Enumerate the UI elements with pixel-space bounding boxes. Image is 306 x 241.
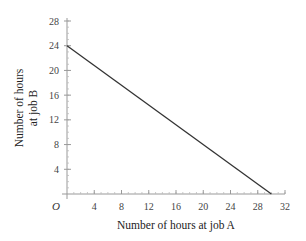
y-axis-label: at job B xyxy=(27,89,40,126)
x-tick-label: 16 xyxy=(171,201,181,212)
x-tick-label: 20 xyxy=(198,201,208,212)
x-axis-label: Number of hours at job A xyxy=(117,219,236,232)
x-tick-label: 28 xyxy=(253,201,263,212)
origin-label: O xyxy=(52,200,60,212)
y-tick-label: 16 xyxy=(49,90,59,101)
y-tick-label: 8 xyxy=(54,139,59,150)
x-tick-label: 32 xyxy=(280,201,290,212)
y-axis-label: Number of hours xyxy=(13,68,25,147)
y-tick-label: 20 xyxy=(49,65,59,76)
y-tick-label: 12 xyxy=(49,114,59,125)
data-line xyxy=(67,46,271,194)
x-tick-label: 4 xyxy=(92,201,97,212)
y-tick-label: 24 xyxy=(49,40,59,51)
x-tick-label: 8 xyxy=(119,201,124,212)
y-tick-label: 4 xyxy=(54,164,59,175)
chart: 48121620242832481216202428ONumber of hou… xyxy=(0,0,306,241)
x-tick-label: 12 xyxy=(144,201,154,212)
x-tick-label: 24 xyxy=(226,201,236,212)
y-tick-label: 28 xyxy=(49,16,59,27)
